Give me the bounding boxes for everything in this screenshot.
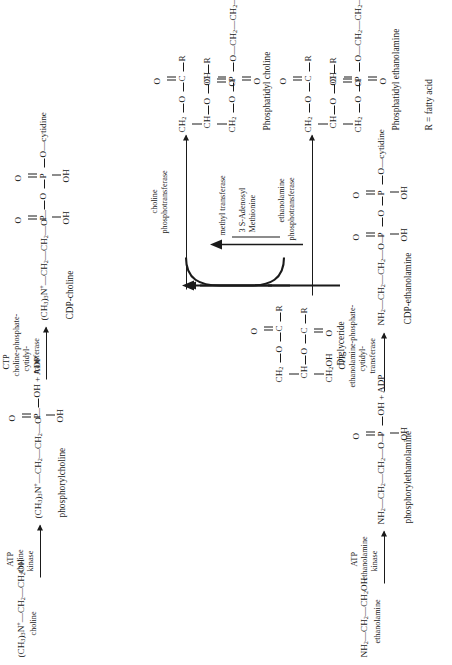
phosphorylcholine-below-group: OH: [56, 409, 66, 422]
pc-ester1-bond-b: [183, 82, 184, 91]
choline-cytidyltransferase-line1: choline-phosphate-: [12, 313, 22, 376]
dbl-line-b: [28, 215, 37, 216]
pc-ester1-dbl-o: O: [153, 77, 163, 84]
ethanolamine-cytidyltransferase-arrow: [384, 333, 385, 391]
pc-ester2-o: O: [203, 97, 213, 104]
pc-phos-bond-a: [233, 103, 234, 112]
pe-phos-p: P: [354, 76, 364, 81]
dbl-line-a: [217, 81, 226, 82]
pc-ester1-c: C: [178, 75, 188, 81]
pc-backbone-bond-2: [217, 123, 227, 124]
pe-phos-o: O: [354, 95, 364, 102]
dbl-line-a: [366, 434, 375, 435]
dg-ester2-o: O: [300, 347, 310, 354]
cdp-choline-p1: P: [39, 215, 49, 220]
dg-ester2-dbl-o: O: [325, 329, 335, 336]
pe-ester1-bond-c: [309, 62, 310, 71]
phosphorylethanolamine-backbone: NH2—CH2—CH2—O—: [377, 432, 387, 524]
dg-ester1-c: C: [275, 325, 285, 331]
cdp-ethanolamine-p2-o: O: [352, 191, 362, 198]
choline-substrate-name: choline: [30, 611, 39, 635]
cdp-ethanolamine-p2-oh-bond: [390, 191, 399, 192]
cdp-ethanolamine-p1-oh: OH: [400, 228, 410, 241]
dbl-line-a: [368, 79, 377, 80]
cdp-ethanolamine-bridge-bond-2: [382, 196, 383, 205]
dg-c2: CH: [300, 365, 310, 378]
cdp-ethanolamine-p1-o: O: [352, 233, 362, 240]
pe-backbone-bond-1: [318, 123, 328, 124]
dbl-line-b: [343, 78, 352, 79]
dg-c1: CH2: [275, 366, 285, 382]
pathway-diagram: (CH3)3N+—CH2—CH2OH choline ATP choline k…: [0, 0, 452, 665]
cdp-ethanolamine-p1-oh-bond: [390, 233, 399, 234]
phosphorylethanolamine-double-bond-o: O: [352, 432, 362, 439]
methyl-transferase-divider: [232, 236, 280, 237]
dbl-line-b: [366, 232, 375, 233]
dg-backbone-bond-2: [314, 373, 324, 374]
pe-ester1-r: R: [304, 55, 314, 61]
dg-ester1-o: O: [275, 345, 285, 352]
pc-headgroup: O—CH2—CH2—N+(CH3)3: [228, 0, 239, 61]
dg-ester1-bond-c: [280, 312, 281, 321]
cdp-choline-p1-oh-bond: [52, 216, 61, 217]
ethanolamine-substrate-formula: NH2—CH2—CH2OH: [360, 577, 370, 657]
cdp-ethanolamine-terminal-bond: [382, 175, 383, 184]
pe-c3: CH2: [354, 116, 364, 132]
cdp-choline-name: CDP-choline: [66, 270, 76, 319]
dbl-line-b: [28, 173, 37, 174]
cdp-ethanolamine-bridge-bond-1: [382, 217, 383, 226]
pc-ester1-o: O: [178, 95, 188, 102]
cdp-choline-p1-o: O: [14, 216, 24, 223]
choline-kinase-enzyme-line2: kinase: [26, 550, 36, 571]
pc-phos-o: O: [228, 95, 238, 102]
pc-phos-oh: OH: [203, 72, 213, 85]
pe-phos-bond-a: [359, 103, 360, 112]
pe-phos-dbl-o: O: [379, 77, 389, 84]
dg-ester1-dbl-o: O: [250, 327, 260, 334]
ethanolamine-cytidyltransferase-line2: cytidyl-: [358, 346, 368, 371]
cdp-ethanolamine-backbone: NH2—CH2—CH2—O—: [377, 233, 387, 325]
cdp-ethanolamine-p2: P: [377, 190, 387, 195]
pe-ester1-dbl-o: O: [279, 77, 289, 84]
pc-ester1-bond-c: [183, 62, 184, 71]
cdp-choline-p2-o: O: [14, 174, 24, 181]
dbl-line-b: [314, 328, 323, 329]
pe-c1: CH2: [304, 116, 314, 132]
methyl-transferase-cofactor-line1: 3 S-Adenosyl: [238, 187, 248, 232]
dbl-line-a: [366, 235, 375, 236]
dbl-line-b: [368, 76, 377, 77]
cdp-choline-bridge-bond-1: [44, 200, 45, 209]
diglyceride-branch-curves: [90, 245, 380, 305]
phosphorylcholine-double-bond-o: O: [8, 414, 18, 421]
phosphorylcholine-p-oh-bond: [38, 398, 39, 407]
dg-ester2-bond-c: [305, 314, 306, 323]
pe-ester2-o: O: [329, 97, 339, 104]
cdp-choline-bridge-bond-2: [44, 179, 45, 188]
dbl-line-b: [242, 76, 251, 77]
pe-ester1-c: C: [304, 75, 314, 81]
cdp-ethanolamine-p2-oh: OH: [400, 186, 410, 199]
ethanolamine-kinase-enzyme-line2: kinase: [370, 550, 380, 571]
pc-ester2-bond-a: [208, 105, 209, 114]
dg-ester1-r: R: [275, 305, 285, 311]
phosphorylethanolamine-right-group: OH + ADP: [377, 374, 387, 415]
phosphorylcholine-backbone: (CH3)3N+—CH2—CH2—O—: [33, 408, 44, 518]
ethanolamine-cytidyltransferase-line1: ethanolamine-phosphate-: [348, 304, 358, 387]
pe-phos-oh: OH: [329, 72, 339, 85]
ethanolamine-substrate-name: ethanolamine: [374, 599, 383, 643]
phosphorylcholine-p: P: [33, 413, 43, 418]
choline-phosphotransferase-line1: choline: [150, 189, 160, 213]
dg-ester2-c: C: [300, 327, 310, 333]
pe-phos-bond-b: [359, 82, 360, 91]
phosphorylcholine-name: phosphorylcholine: [58, 447, 68, 517]
cdp-ethanolamine-name: CDP-ethanolamine: [404, 252, 414, 324]
choline-phosphotransferase-line2: phosphotransferase: [160, 170, 170, 233]
cdp-choline-p2: P: [39, 173, 49, 178]
choline-kinase-enzyme-line1: choline: [16, 549, 26, 573]
phosphatidyl-ethanolamine-name: Phosphatidyl ethanolamine: [392, 28, 402, 130]
dbl-line-a: [242, 79, 251, 80]
phosphorylethanolamine-p: P: [377, 431, 387, 436]
ethanolamine-phosphotransferase-arrow: [312, 135, 313, 265]
dbl-line-a: [167, 79, 176, 80]
dbl-line-b: [217, 78, 226, 79]
